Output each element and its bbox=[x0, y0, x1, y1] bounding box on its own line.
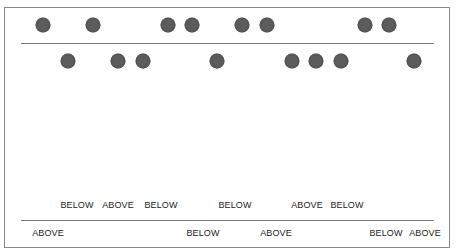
bottom-row-dot bbox=[309, 54, 324, 69]
top-row-dot bbox=[36, 18, 51, 33]
upper-position-label: BELOW bbox=[144, 200, 177, 210]
upper-position-label: BELOW bbox=[218, 200, 251, 210]
lower-position-label: ABOVE bbox=[260, 228, 292, 238]
lower-position-label: ABOVE bbox=[409, 228, 441, 238]
upper-position-label: BELOW bbox=[60, 200, 93, 210]
top-row-dot bbox=[382, 18, 397, 33]
bottom-row-dot bbox=[334, 54, 349, 69]
bottom-divider-line bbox=[21, 220, 434, 221]
top-row-dot bbox=[260, 18, 275, 33]
bottom-row-dot bbox=[285, 54, 300, 69]
bottom-row-dot bbox=[136, 54, 151, 69]
upper-position-label: BELOW bbox=[330, 200, 363, 210]
bottom-row-dot bbox=[407, 54, 422, 69]
top-row-dot bbox=[185, 18, 200, 33]
upper-position-label: ABOVE bbox=[102, 200, 134, 210]
lower-position-label: BELOW bbox=[369, 228, 402, 238]
top-row-dot bbox=[358, 18, 373, 33]
top-row-dot bbox=[86, 18, 101, 33]
upper-position-label: ABOVE bbox=[291, 200, 323, 210]
bottom-row-dot bbox=[61, 54, 76, 69]
lower-position-label: BELOW bbox=[186, 228, 219, 238]
bottom-row-dot bbox=[210, 54, 225, 69]
top-row-dot bbox=[161, 18, 176, 33]
bottom-row-dot bbox=[111, 54, 126, 69]
top-divider-line bbox=[21, 43, 434, 44]
lower-position-label: ABOVE bbox=[32, 228, 64, 238]
top-row-dot bbox=[235, 18, 250, 33]
